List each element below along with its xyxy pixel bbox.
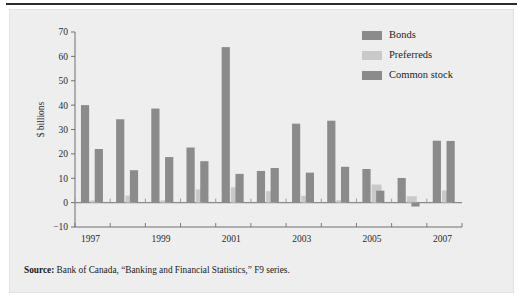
legend-swatch-preferreds	[362, 51, 382, 60]
chart-legend: Bonds Preferreds Common stock	[362, 27, 502, 87]
x-tick-label-2003: 2003	[292, 234, 311, 244]
bar-bonds-1999	[151, 109, 159, 203]
x-tick-label-1997: 1997	[81, 234, 100, 244]
bar-common-stock-1997	[95, 149, 103, 203]
bar-common-stock-2002	[271, 168, 279, 203]
legend-item-bonds: Bonds	[362, 27, 502, 43]
bar-common-stock-2001	[235, 174, 243, 203]
figure-container: −10010203040506070$ billions199719992001…	[0, 0, 523, 306]
y-tick-label: 10	[59, 174, 69, 184]
bar-common-stock-2005	[376, 191, 384, 203]
source-note: Source: Bank of Canada, “Banking and Fin…	[24, 265, 290, 275]
bar-common-stock-2004	[341, 167, 349, 203]
source-label: Source:	[24, 265, 54, 275]
bar-preferreds-2006	[407, 196, 417, 202]
bar-bonds-2001	[222, 47, 230, 203]
x-tick-label-2005: 2005	[363, 234, 382, 244]
legend-item-preferreds: Preferreds	[362, 47, 502, 63]
y-tick-label: 50	[59, 76, 69, 86]
x-tick-label-2007: 2007	[433, 234, 452, 244]
y-axis-label: $ billions	[36, 101, 46, 137]
y-tick-label: 30	[59, 125, 69, 135]
y-tick-label: 20	[59, 149, 69, 159]
legend-swatch-bonds	[362, 31, 382, 40]
y-tick-label: −10	[53, 222, 68, 232]
legend-item-common-stock: Common stock	[362, 67, 502, 83]
bar-bonds-2005	[362, 169, 370, 203]
bar-bonds-2003	[292, 124, 300, 203]
bar-bonds-1998	[116, 119, 124, 202]
y-tick-label: 0	[63, 198, 68, 208]
y-tick-label: 40	[59, 101, 69, 111]
source-text: Bank of Canada, “Banking and Financial S…	[54, 265, 289, 275]
y-tick-label: 60	[59, 52, 69, 62]
bar-common-stock-2000	[200, 161, 208, 202]
bar-bonds-1997	[81, 105, 89, 203]
legend-swatch-common-stock	[362, 71, 382, 80]
y-tick-label: 70	[59, 27, 69, 37]
bar-bonds-2002	[257, 171, 265, 203]
bar-bonds-2004	[327, 121, 335, 203]
legend-label-preferreds: Preferreds	[389, 49, 432, 61]
bar-common-stock-1998	[130, 170, 138, 202]
bar-common-stock-2006	[411, 203, 419, 207]
bar-bonds-2007	[433, 141, 441, 203]
legend-label-common-stock: Common stock	[389, 69, 453, 81]
x-tick-label-2001: 2001	[222, 234, 241, 244]
bar-bonds-2000	[186, 148, 194, 203]
x-tick-label-1999: 1999	[151, 234, 170, 244]
bar-bonds-2006	[398, 178, 406, 203]
bar-common-stock-2007	[447, 141, 455, 203]
legend-label-bonds: Bonds	[389, 29, 416, 41]
bar-common-stock-2003	[306, 173, 314, 203]
bar-common-stock-1999	[165, 157, 173, 203]
